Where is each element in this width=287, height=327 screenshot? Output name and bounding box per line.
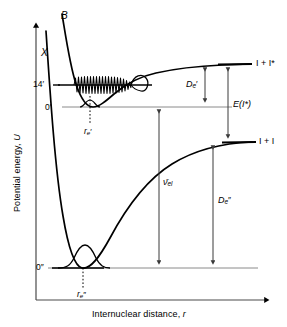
- re-upper-prime: ′: [90, 127, 92, 136]
- de-upper-prime: ′: [196, 79, 198, 89]
- re-lower-prime: ″: [83, 290, 86, 299]
- level-label-v0-upper: 0′: [45, 103, 51, 112]
- level-label-v0-ground: 0″: [36, 263, 44, 272]
- dissociation-label-upper: I + I*: [256, 59, 275, 68]
- upper-dissociation-line: [218, 64, 252, 65]
- morse-curve-ground-state: [46, 31, 252, 268]
- e-istar-symbol: E(I*): [233, 99, 251, 109]
- y-axis-label: Potential energy, U: [13, 134, 22, 212]
- y-axis-label-text: Potential energy,: [12, 141, 22, 212]
- annotation-nu-el: ν̄el: [163, 178, 173, 188]
- annotation-e-istar: E(I*): [233, 100, 251, 109]
- wavefunction-v0-ground: [58, 245, 110, 268]
- state-label-B: B: [61, 11, 68, 21]
- de-lower-prime: ″: [228, 195, 231, 205]
- state-label-X: X: [41, 48, 48, 58]
- equilibrium-label-upper: re′: [84, 127, 92, 136]
- x-axis-label: Internuclear distance, r: [92, 310, 186, 319]
- nu-el-subscript: el: [168, 180, 173, 187]
- dissociation-label-lower: I + I: [259, 137, 274, 146]
- x-axis-label-symbol: r: [183, 309, 186, 319]
- morse-curve-excited-state: [62, 14, 250, 107]
- y-axis-label-symbol: U: [12, 134, 22, 141]
- potential-energy-diagram: Potential energy, U Internuclear distanc…: [0, 0, 287, 327]
- equilibrium-label-lower: re″: [77, 290, 86, 299]
- annotation-de-lower: De″: [218, 196, 231, 206]
- x-axis-label-text: Internuclear distance,: [92, 309, 183, 319]
- lower-dissociation-line: [222, 142, 256, 143]
- level-label-v14: 14′: [33, 80, 44, 89]
- annotation-de-upper: De′: [186, 80, 198, 90]
